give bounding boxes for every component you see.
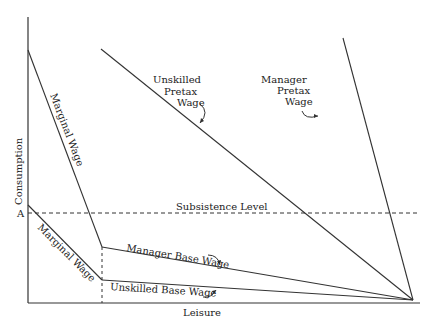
lower-marginal-wage-label: Marginal Wage [36, 222, 98, 284]
upper-marginal-wage-label: Marginal Wage [48, 92, 86, 168]
y-axis-label: Consumption [13, 137, 24, 205]
unskilled-pretax-wage-line [101, 49, 413, 300]
y-tick-label-a: A [16, 208, 25, 219]
labor-supply-diagram: Consumption Leisure A Subsistence Level … [0, 0, 436, 327]
manager-pretax-label-line3: Wage [285, 96, 313, 107]
subsistence-level-label: Subsistence Level [176, 201, 268, 212]
unskilled-pretax-label-line2: Pretax [164, 86, 197, 97]
x-axis-label: Leisure [183, 307, 221, 318]
unskilled-pretax-label-line3: Wage [177, 97, 205, 108]
unskilled-pretax-label-line1: Unskilled [153, 74, 202, 85]
manager-pretax-label-line1: Manager [261, 74, 307, 85]
manager-pretax-label-line2: Pretax [277, 85, 310, 96]
manager-pretax-wage-line [343, 38, 413, 300]
upper-marginal-wage-line [28, 50, 102, 247]
unskilled-base-wage-label: Unskilled Base Wage [110, 281, 217, 298]
manager-pretax-arrowhead-icon [314, 114, 318, 118]
manager-base-wage-label: Manager Base Wage [126, 242, 231, 270]
